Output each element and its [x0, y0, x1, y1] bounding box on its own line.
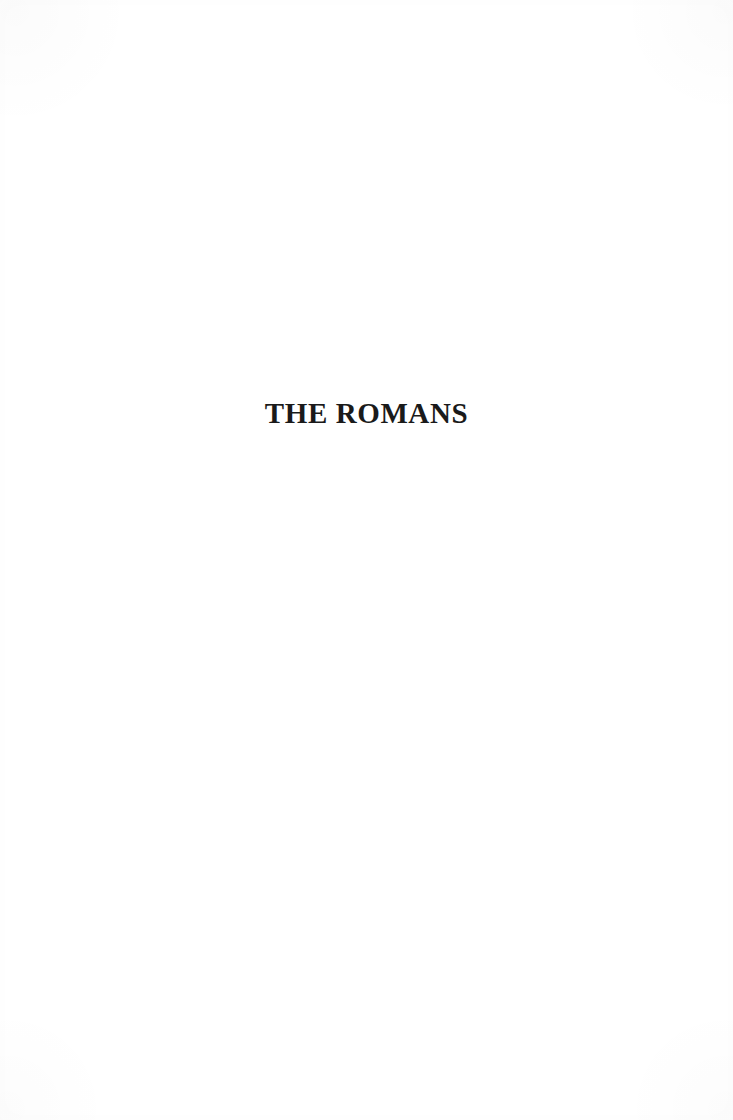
scan-vignette-overlay	[0, 0, 733, 1120]
scanned-book-page: THE ROMANS	[0, 0, 733, 1120]
half-title-block: THE ROMANS	[0, 398, 733, 428]
half-title-text: THE ROMANS	[265, 398, 468, 428]
